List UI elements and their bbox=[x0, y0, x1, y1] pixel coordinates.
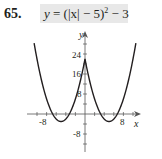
y-tick-label-neg8: -8 bbox=[73, 129, 81, 139]
graph: y x -8 8 24 16 8 -8 bbox=[0, 0, 162, 159]
x-tick-label-8: 8 bbox=[120, 117, 125, 127]
y-axis-label: y bbox=[78, 29, 84, 40]
x-tick-label-neg8: -8 bbox=[39, 117, 47, 127]
x-axis-label: x bbox=[133, 118, 139, 129]
y-tick-label-24: 24 bbox=[72, 50, 82, 60]
y-tick-label-16: 16 bbox=[72, 69, 82, 79]
